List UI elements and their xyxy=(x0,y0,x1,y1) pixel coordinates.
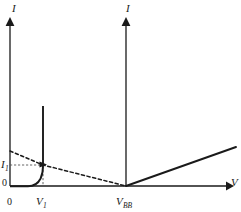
ujt-characteristic-figure: I I V I1 0 0 V1 VBB xyxy=(0,0,241,212)
peak-current-subscript: 1 xyxy=(5,164,9,173)
supply-line-group xyxy=(126,147,236,186)
origin-label-i-axis: 0 xyxy=(2,178,7,188)
i-axis-left-label: I xyxy=(12,3,16,14)
origin-label-v-axis: 0 xyxy=(7,197,12,207)
v-axis-label: V xyxy=(231,177,238,188)
load-line xyxy=(10,151,126,186)
supply-voltage-label: VBB xyxy=(116,196,132,207)
peak-voltage-label: V1 xyxy=(36,196,46,207)
plot-canvas xyxy=(0,0,241,212)
supply-line xyxy=(126,147,236,186)
emitter-characteristic-curve xyxy=(10,106,43,186)
supply-voltage-symbol: V xyxy=(116,195,123,207)
i-axis-right-arrowhead xyxy=(122,17,131,26)
emitter-characteristic-group xyxy=(10,106,43,186)
peak-voltage-symbol: V xyxy=(36,195,43,207)
i-axis-left-arrowhead xyxy=(6,17,15,26)
peak-voltage-subscript: 1 xyxy=(43,201,47,210)
peak-current-label: I1 xyxy=(1,159,8,170)
load-line-group xyxy=(10,151,126,186)
supply-voltage-subscript: BB xyxy=(123,201,132,210)
i-axis-right-label: I xyxy=(126,3,130,14)
